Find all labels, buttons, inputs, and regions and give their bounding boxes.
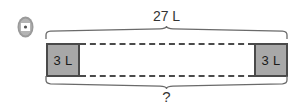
middle-segment bbox=[80, 43, 254, 77]
right-segment: 3 L bbox=[254, 43, 288, 77]
oval-bullet-icon bbox=[17, 16, 34, 38]
total-length-label: 27 L bbox=[43, 8, 290, 24]
left-segment-label: 3 L bbox=[54, 53, 73, 68]
left-segment: 3 L bbox=[46, 43, 80, 77]
total-length-brace bbox=[41, 26, 292, 39]
unknown-length-label: ? bbox=[43, 88, 290, 105]
right-segment-label: 3 L bbox=[262, 53, 281, 68]
diagram-canvas: 27 L 3 L 3 L ? bbox=[0, 0, 307, 112]
bar-model: 3 L 3 L bbox=[46, 43, 288, 77]
